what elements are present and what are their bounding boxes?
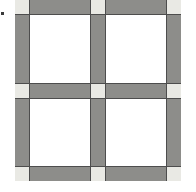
- cornerstone-tile: [15, 0, 29, 14]
- sash-tile: [106, 167, 166, 181]
- sash-tile: [15, 99, 29, 167]
- patch-tile: [106, 15, 166, 83]
- cornerstone-tile: [167, 167, 181, 181]
- sash-tile: [106, 0, 166, 14]
- cornerstone-tile: [15, 84, 29, 98]
- cornerstone-tile: [91, 167, 105, 181]
- quilt-block-lattice: [15, 0, 181, 181]
- ink-speck-mark: [1, 12, 4, 15]
- cornerstone-tile: [167, 0, 181, 14]
- cornerstone-tile: [91, 0, 105, 14]
- sash-tile: [106, 84, 166, 98]
- sash-tile: [91, 99, 105, 167]
- sash-tile: [30, 167, 90, 181]
- cornerstone-tile: [91, 84, 105, 98]
- patch-tile: [106, 99, 166, 167]
- patch-tile: [30, 99, 90, 167]
- cornerstone-tile: [167, 84, 181, 98]
- sash-tile: [15, 15, 29, 83]
- figure-canvas: [0, 0, 196, 192]
- sash-tile: [30, 84, 90, 98]
- sash-tile: [30, 0, 90, 14]
- cornerstone-tile: [15, 167, 29, 181]
- sash-tile: [167, 15, 181, 83]
- sash-tile: [167, 99, 181, 167]
- sash-tile: [91, 15, 105, 83]
- patch-tile: [30, 15, 90, 83]
